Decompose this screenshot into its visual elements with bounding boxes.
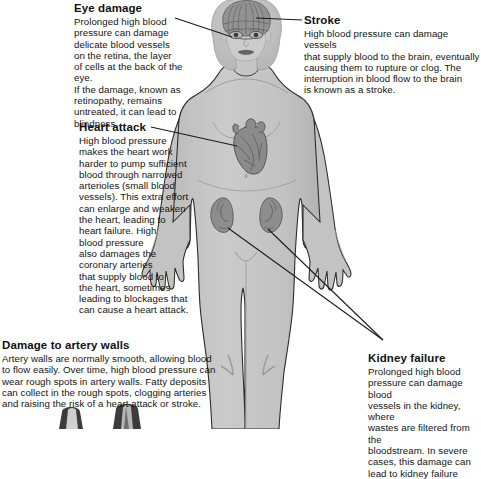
callout-eye-damage: Eye damage Prolonged high blood pressure… xyxy=(74,2,200,129)
callout-heart-attack: Heart attack High blood pressure makes t… xyxy=(79,121,197,316)
kidney-right xyxy=(260,198,282,233)
callout-stroke-title: Stroke xyxy=(304,14,481,27)
callout-artery-walls-title: Damage to artery walls xyxy=(2,339,248,352)
callout-heart-attack-title: Heart attack xyxy=(79,121,197,134)
kidney-left xyxy=(211,198,233,233)
callout-stroke: Stroke High blood pressure can damage ve… xyxy=(304,14,481,96)
callout-heart-attack-body: High blood pressure makes the heart work… xyxy=(79,135,197,316)
callout-eye-damage-title: Eye damage xyxy=(74,2,200,15)
callout-kidney-failure-body: Prolonged high blood pressure can damage… xyxy=(368,366,481,479)
callout-artery-walls-body: Artery walls are normally smooth, allowi… xyxy=(2,353,248,409)
callout-eye-damage-body: Prolonged high blood pressure can damage… xyxy=(74,16,200,129)
callout-kidney-failure-title: Kidney failure xyxy=(368,352,481,365)
callout-artery-walls: Damage to artery walls Artery walls are … xyxy=(2,339,248,409)
callout-stroke-body: High blood pressure can damage vessels t… xyxy=(304,28,481,96)
callout-kidney-failure: Kidney failure Prolonged high blood pres… xyxy=(368,352,481,479)
